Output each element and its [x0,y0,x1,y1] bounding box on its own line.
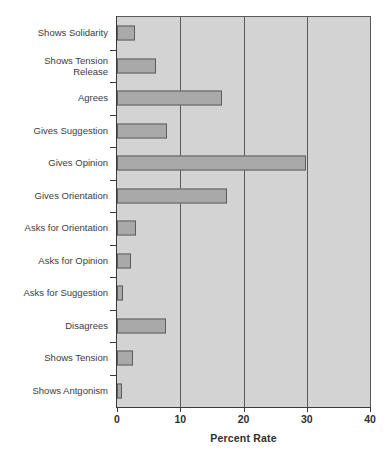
x-tick-label: 30 [287,413,327,425]
bar-asks-for-suggestion [117,286,123,301]
bar-shows-tension [117,351,133,366]
y-label: Shows Tension [0,353,108,365]
x-axis-title: Percent Rate [117,432,370,444]
y-axis-labels: Shows Solidarity Shows Tension Release A… [0,17,108,407]
x-tick-label: 40 [350,413,390,425]
bar-row [117,50,370,83]
bar-row [117,180,370,213]
bar-shows-antgonism [117,383,122,398]
bars-layer [117,17,370,407]
gridline-40 [370,17,371,407]
bar-shows-tension-release [117,58,156,73]
x-tick [244,407,245,412]
y-label: Gives Suggestion [0,125,108,137]
y-label: Shows Solidarity [0,28,108,40]
y-label: Disagrees [0,320,108,332]
bar-row [117,147,370,180]
bar-gives-opinion [117,156,306,171]
bar-row [117,277,370,310]
y-tick [110,82,117,83]
y-label: Shows Antgonism [0,385,108,397]
y-label: Shows Tension Release [0,54,108,77]
y-tick [110,342,117,343]
y-tick [110,375,117,376]
bar-asks-for-opinion [117,253,131,268]
x-tick [307,407,308,412]
x-tick [180,407,181,412]
x-tick-label: 0 [97,413,137,425]
y-tick [110,50,117,51]
x-tick-label: 20 [224,413,264,425]
y-label: Gives Orientation [0,190,108,202]
bar-shows-solidarity [117,26,135,41]
bar-row [117,342,370,375]
bar-row [117,17,370,50]
bar-asks-for-orientation [117,221,136,236]
bar-agrees [117,91,222,106]
bar-chart: Shows Solidarity Shows Tension Release A… [0,0,392,464]
y-label: Gives Opinion [0,158,108,170]
y-tick [110,147,117,148]
y-label: Asks for Opinion [0,255,108,267]
y-tick [110,212,117,213]
x-tick [117,407,118,412]
bar-row [117,212,370,245]
bar-gives-orientation [117,188,227,203]
y-tick [110,277,117,278]
y-tick [110,245,117,246]
bar-disagrees [117,318,166,333]
y-label: Asks for Orientation [0,223,108,235]
bar-row [117,245,370,278]
y-label: Asks for Suggestion [0,288,108,300]
bar-row [117,375,370,408]
y-tick [110,310,117,311]
y-tick [110,180,117,181]
y-label: Agrees [0,93,108,105]
bar-row [117,115,370,148]
bar-gives-suggestion [117,123,167,138]
x-tick [370,407,371,412]
y-tick [110,115,117,116]
bar-row [117,310,370,343]
x-tick-label: 10 [160,413,200,425]
bar-row [117,82,370,115]
